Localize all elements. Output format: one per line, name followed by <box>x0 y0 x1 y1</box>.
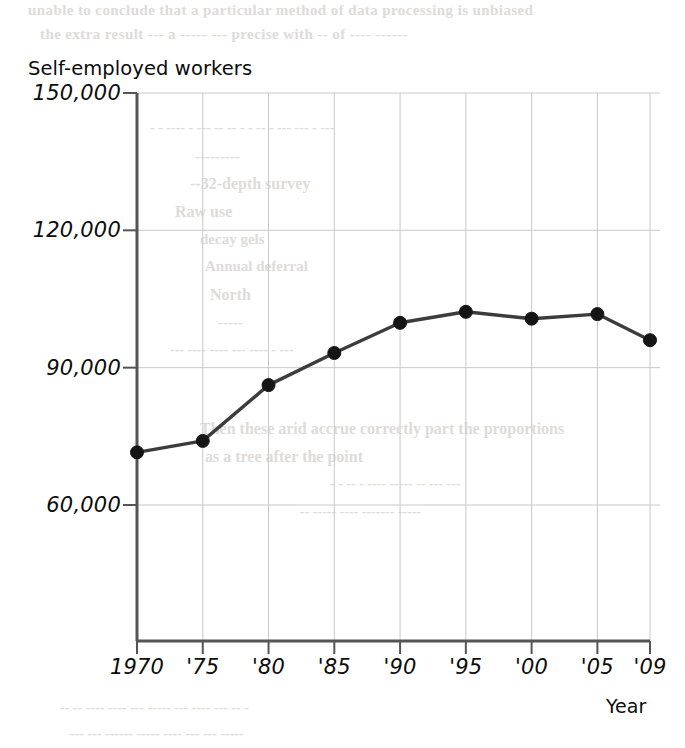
y-axis-tick-label: 60,000 <box>0 493 121 517</box>
y-axis-tick-label: 120,000 <box>0 218 121 242</box>
data-point-marker <box>328 347 341 360</box>
data-series-line <box>137 312 650 453</box>
x-axis-tick-label: '85 <box>318 655 351 679</box>
y-axis-tick-label: 150,000 <box>0 81 121 105</box>
data-point-marker <box>262 379 275 392</box>
x-axis-title: Year <box>606 695 646 717</box>
x-axis-tick-label: '05 <box>581 655 614 679</box>
line-chart: Self-employed workers 150,000120,00090,0… <box>0 0 685 748</box>
x-axis-tick-label: '75 <box>186 655 219 679</box>
x-axis-tick-label: '90 <box>384 655 417 679</box>
x-axis-tick-label: '80 <box>252 655 285 679</box>
y-axis-tick-label: 90,000 <box>0 356 121 380</box>
x-axis-tick-label: '95 <box>449 655 482 679</box>
data-point-marker <box>591 308 604 321</box>
x-axis-tick-label: 1970 <box>110 655 164 679</box>
data-point-marker <box>394 316 407 329</box>
data-point-marker <box>131 446 144 459</box>
data-point-marker <box>644 334 657 347</box>
data-point-marker <box>525 312 538 325</box>
x-axis-tick-label: '09 <box>633 655 666 679</box>
x-axis-tick-label: '00 <box>515 655 548 679</box>
data-point-marker <box>459 305 472 318</box>
data-point-marker <box>196 434 209 447</box>
